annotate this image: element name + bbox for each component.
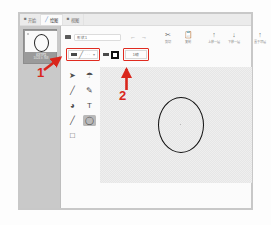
ellipse-center-dot <box>180 124 181 125</box>
undo-redo-group: ← → <box>130 34 147 40</box>
bring-forward-label: 上移一层 <box>208 39 220 44</box>
select-arrow-icon: ➤ <box>69 71 76 80</box>
send-to-back-button[interactable]: ↓ 置于底层 <box>270 31 271 44</box>
slide-thumbnail-item[interactable]: 幻灯片1 1024 x 768 <box>23 29 57 64</box>
undo-icon[interactable]: ← <box>130 34 136 40</box>
home-icon: ■ <box>24 17 27 22</box>
thumbnail-ellipse-shape <box>34 34 49 52</box>
dash-line-icon <box>71 53 77 56</box>
color-swatch-inner <box>113 53 117 57</box>
tab-home[interactable]: ■ 开始 <box>20 14 41 25</box>
shape-name-input[interactable]: 形状1 <box>74 34 121 41</box>
diagonal-line-icon: ╱ <box>79 51 83 58</box>
rectangle-tool[interactable]: □ <box>66 130 79 141</box>
pencil-tool[interactable]: ╱ <box>66 85 79 96</box>
line-icon: ╱ <box>70 116 75 125</box>
tab-draw-label: 绘图 <box>50 17 58 23</box>
shape-name-group: 形状1 <box>65 34 121 41</box>
fill-dash-icon <box>103 53 109 56</box>
ellipse-icon: ◯ <box>85 116 94 125</box>
ribbon-row-top: 形状1 ← → ✂ 剪切 📋 复制 <box>61 26 251 48</box>
cut-label: 剪切 <box>165 39 171 44</box>
work-area: 形状1 ← → ✂ 剪切 📋 复制 <box>61 26 251 208</box>
tab-strip: ■ 开始 ╱ 绘图 ■ 视图 <box>20 14 251 26</box>
slide-thumbnail[interactable] <box>25 31 57 52</box>
fill-color-group <box>103 51 119 59</box>
bring-to-front-label: 置于顶层 <box>254 39 266 44</box>
slide-caption: 幻灯片1 1024 x 768 <box>25 52 57 62</box>
copy-icon: 📋 <box>184 31 193 38</box>
pencil-tool-icon: ╱ <box>70 86 75 95</box>
tab-draw[interactable]: ╱ 绘图 <box>41 14 63 25</box>
bring-to-front-button[interactable]: ↑ 置于顶层 <box>250 31 270 44</box>
move-down-icon: ↓ <box>232 31 236 38</box>
drawing-canvas[interactable] <box>100 67 252 183</box>
eraser-icon: ✎ <box>86 86 93 95</box>
style-bar: ╱ ··· ▾ 1磅 <box>61 46 251 63</box>
line-tool[interactable]: ╱ <box>66 115 79 126</box>
ellipse-shape[interactable] <box>158 97 204 153</box>
text-icon: T <box>87 101 92 110</box>
annotation-number-2: 2 <box>119 89 126 102</box>
copy-button[interactable]: 📋 复制 <box>178 31 198 44</box>
redo-icon[interactable]: → <box>141 34 147 40</box>
pencil-icon: ╱ <box>45 18 48 23</box>
paint-bucket-icon: ◕ <box>70 101 75 110</box>
screenshot-root: ■ 开始 ╱ 绘图 ■ 视图 幻灯片1 1024 x 768 <box>0 0 271 225</box>
text-tool[interactable]: T <box>83 100 96 111</box>
paint-bucket-tool[interactable]: ◕ <box>66 100 79 111</box>
tab-view[interactable]: ■ 视图 <box>63 14 84 25</box>
line-width-highlight-box: 1磅 <box>123 48 149 61</box>
thumbnail-corner-dot <box>27 33 29 35</box>
line-width-value: 1磅 <box>133 52 139 57</box>
shape-name-value: 形状1 <box>77 35 87 40</box>
annotation-number-1: 1 <box>37 66 44 79</box>
slide-caption-line2: 1024 x 768 <box>25 57 57 61</box>
shape-icon <box>65 35 71 39</box>
lasso-icon: ☂ <box>86 71 93 80</box>
view-icon: ■ <box>67 17 70 22</box>
ellipse-tool[interactable]: ◯ <box>83 115 96 126</box>
bring-forward-button[interactable]: ↑ 上移一层 <box>204 31 224 44</box>
ribbon-commands: ✂ 剪切 📋 复制 ↑ 上移一层 ↓ 下移一层 <box>158 31 271 44</box>
select-arrow-tool[interactable]: ➤ <box>66 70 79 81</box>
tab-view-label: 视图 <box>71 17 79 23</box>
send-backward-button[interactable]: ↓ 下移一层 <box>224 31 244 44</box>
cut-button[interactable]: ✂ 剪切 <box>158 31 178 44</box>
tool-palette: ➤ ☂ ╱ ✎ ◕ T ╱ ◯ □ <box>64 70 98 141</box>
line-width-control[interactable]: 1磅 <box>125 50 147 59</box>
line-style-highlight-box: ╱ ··· ▾ <box>66 48 100 61</box>
line-style-control[interactable]: ╱ ··· ▾ <box>68 50 98 59</box>
eraser-tool[interactable]: ✎ <box>83 85 96 96</box>
slide-panel: 幻灯片1 1024 x 768 <box>20 26 61 208</box>
copy-label: 复制 <box>185 39 191 44</box>
color-swatch-button[interactable] <box>111 51 119 59</box>
dotted-line-icon: ··· <box>85 52 91 57</box>
chevron-down-icon[interactable]: ▾ <box>93 53 95 57</box>
rectangle-icon: □ <box>70 131 75 140</box>
app-body: 幻灯片1 1024 x 768 形状1 ← → <box>20 26 251 208</box>
cut-icon: ✂ <box>165 31 171 38</box>
top-icon: ↑ <box>258 31 262 38</box>
move-up-icon: ↑ <box>212 31 216 38</box>
lasso-tool[interactable]: ☂ <box>83 70 96 81</box>
tab-home-label: 开始 <box>28 17 36 23</box>
send-backward-label: 下移一层 <box>228 39 240 44</box>
